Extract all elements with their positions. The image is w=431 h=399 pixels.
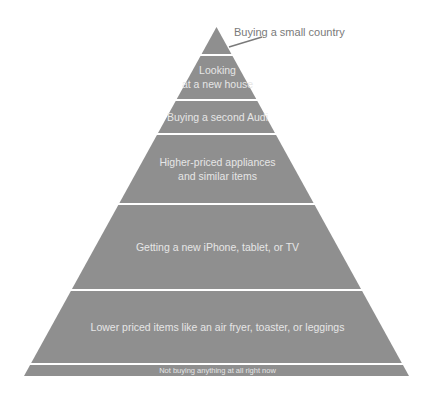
pyramid-tiers: Lookingat a new houseBuying a second Aud… xyxy=(24,27,409,376)
tier-label-appliances: and similar items xyxy=(178,170,257,182)
pyramid-tier-apex xyxy=(202,27,232,54)
tier-label-nothing: Not buying anything at all right now xyxy=(159,366,276,375)
tier-label-house: Looking xyxy=(199,64,236,76)
tier-label-audi: Buying a second Audi xyxy=(167,111,268,123)
callout-label-apex: Buying a small country xyxy=(234,26,345,38)
tier-label-house: at a new house xyxy=(182,78,253,90)
pyramid-diagram: Lookingat a new houseBuying a second Aud… xyxy=(0,0,431,399)
tier-label-small-items: Lower priced items like an air fryer, to… xyxy=(91,321,345,333)
callout-pointer-line xyxy=(229,37,262,47)
tier-label-electronics: Getting a new iPhone, tablet, or TV xyxy=(136,241,299,253)
tier-label-appliances: Higher-priced appliances xyxy=(159,156,275,168)
